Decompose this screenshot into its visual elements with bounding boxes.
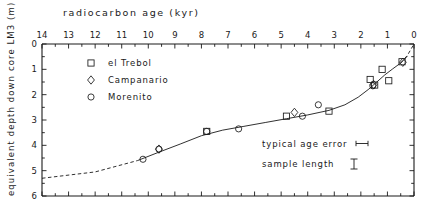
y-axis-ticks: 0123456 — [32, 39, 414, 201]
data-point-diamond — [291, 108, 298, 116]
y-tick-label: 2 — [32, 90, 37, 100]
age-error-label: typical age error — [262, 139, 347, 149]
chart-canvas: radiocarbon age (kyr) equivalent depth d… — [0, 0, 440, 212]
data-point-circle — [88, 94, 94, 100]
y-tick-label: 4 — [32, 140, 37, 150]
data-point-square — [386, 78, 392, 84]
data-point-circle — [315, 102, 321, 108]
x-tick-label: 14 — [37, 30, 48, 40]
x-tick-label: 8 — [199, 30, 204, 40]
data-point-square — [88, 60, 94, 66]
data-point-circle — [156, 146, 162, 152]
x-tick-label: 7 — [225, 30, 230, 40]
sample-length-label: sample length — [262, 159, 334, 169]
legend-label-circle: Morenito — [108, 92, 153, 102]
x-tick-label: 13 — [63, 30, 74, 40]
data-point-circle — [236, 126, 242, 132]
data-point-square — [379, 66, 385, 72]
x-tick-label: 0 — [411, 30, 416, 40]
x-tick-label: 3 — [332, 30, 337, 40]
x-tick-label: 6 — [252, 30, 257, 40]
y-tick-label: 1 — [32, 64, 37, 74]
x-tick-label: 1 — [385, 30, 390, 40]
x-tick-label: 11 — [116, 30, 127, 40]
x-tick-label: 12 — [90, 30, 101, 40]
y-axis-title: equivalent depth down core LM3 (m) — [6, 2, 16, 196]
data-point-circle — [204, 128, 210, 134]
chart-figure: radiocarbon age (kyr) equivalent depth d… — [0, 0, 440, 212]
legend-label-square: el Trebol — [108, 58, 152, 68]
chart-title: radiocarbon age (kyr) — [63, 7, 199, 18]
x-tick-label: 9 — [172, 30, 177, 40]
x-tick-label: 5 — [278, 30, 283, 40]
y-tick-label: 6 — [32, 191, 37, 201]
annotations: typical age errorsample length — [262, 139, 368, 169]
x-tick-label: 2 — [358, 30, 363, 40]
axes-lines — [42, 44, 414, 196]
legend-label-diamond: Campanario — [108, 75, 169, 85]
fit-curve — [42, 44, 414, 178]
y-tick-label: 5 — [32, 166, 37, 176]
legend: el TrebolCampanarioMorenito — [88, 58, 169, 102]
x-tick-label: 10 — [143, 30, 154, 40]
x-axis-ticks: 14131211109876543210 — [37, 30, 417, 196]
data-point-diamond — [88, 76, 95, 84]
y-tick-label: 0 — [32, 39, 37, 49]
y-tick-label: 3 — [32, 115, 37, 125]
x-tick-label: 4 — [305, 30, 310, 40]
